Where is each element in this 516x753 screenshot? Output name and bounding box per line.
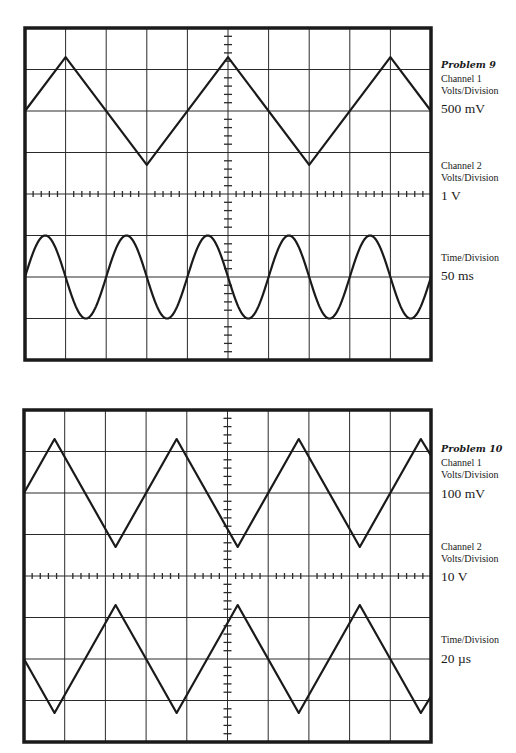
channel2-label: Channel 2 [441, 542, 482, 552]
channel1-unit-label: Volts/Division [441, 86, 499, 96]
channel2-unit-label: Volts/Division [441, 554, 499, 564]
channel1-label: Channel 1 [441, 458, 482, 468]
channel1-label: Channel 1 [441, 74, 482, 84]
channel2-unit-label: Volts/Division [441, 173, 499, 183]
time-unit-label: Time/Division [441, 253, 499, 263]
time-per-division: 50 ms [441, 269, 474, 283]
channel1-volts-per-division: 500 mV [441, 102, 485, 116]
oscilloscope-screen-problem-9 [25, 28, 431, 360]
time-per-division: 20 µs [441, 652, 471, 666]
time-unit-label: Time/Division [441, 635, 499, 645]
oscilloscope-screen-problem-10 [24, 410, 431, 742]
channel2-volts-per-division: 1 V [441, 189, 461, 203]
settings-panel-problem-9: Problem 9 Channel 1 Volts/Division 500 m… [441, 0, 516, 370]
channel1-volts-per-division: 100 mV [441, 487, 485, 501]
channel2-label: Channel 2 [441, 161, 482, 171]
scope-graticule-problem-10 [24, 410, 431, 742]
channel1-unit-label: Volts/Division [441, 470, 499, 480]
problem-title: Problem 10 [441, 444, 502, 454]
problem-title: Problem 9 [441, 60, 496, 70]
scope-graticule-problem-9 [25, 28, 431, 360]
settings-panel-problem-10: Problem 10 Channel 1 Volts/Division 100 … [441, 380, 516, 753]
channel2-volts-per-division: 10 V [441, 570, 467, 584]
